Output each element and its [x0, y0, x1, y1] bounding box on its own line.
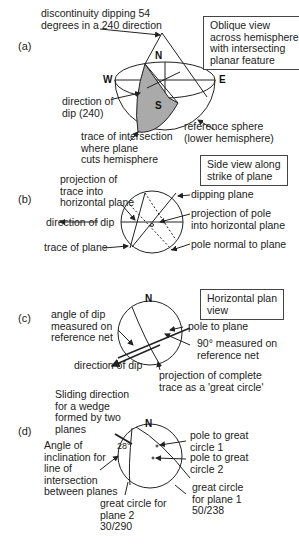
angle-value: 28°: [117, 441, 131, 453]
pole-normal: pole normal to plane: [191, 239, 286, 251]
projection-complete-trace: projection of complete trace as a 'great…: [159, 370, 263, 393]
discontinuity-note: discontinuity dipping 54 degrees in a 24…: [41, 8, 162, 31]
north-label-c: N: [145, 293, 152, 304]
panel-b-box: Side view along strike of plane: [200, 155, 288, 186]
reference-sphere: reference sphere (lower hemisphere): [184, 121, 274, 144]
west-label-a: W: [103, 74, 112, 85]
ninety-measured: 90° measured on reference net: [197, 338, 277, 361]
angle-of-dip: angle of dip measured on reference net: [51, 309, 113, 344]
sliding-direction: Sliding direction for a wedge formed by …: [55, 389, 129, 435]
south-label-a: S: [155, 100, 162, 111]
great-circle-plane-2: great circle for plane 2 30/290: [100, 498, 167, 533]
angle-of-inclination: Angle of inclination for line of interse…: [44, 440, 118, 498]
direction-of-dip-b: direction of dip: [46, 217, 114, 229]
trace-of-intersection: trace of intersection where plane cuts h…: [81, 131, 173, 166]
panel-a-box: Oblique view across hemisphere with inte…: [203, 16, 299, 70]
panel-label-a: (a): [18, 40, 31, 52]
east-label-a: E: [219, 74, 226, 85]
direction-of-dip-c: direction of dip: [74, 360, 142, 372]
panel-label-c: (c): [18, 312, 31, 324]
pole-great-circle-1: pole to great circle 1: [190, 430, 248, 453]
panel-c-box: Horizontal plan view: [200, 289, 284, 320]
projection-of-trace: projection of trace into horizontal plan…: [60, 174, 134, 209]
great-circle-plane-1: great circle for plane 1 50/238: [192, 482, 243, 517]
north-label-d: N: [145, 418, 152, 429]
pole-to-plane: pole to plane: [188, 321, 248, 333]
pole-great-circle-2: pole to great circle 2: [190, 452, 248, 475]
projection-of-pole: projection of pole into horizontal plane: [191, 208, 285, 231]
trace-of-plane: trace of plane: [44, 242, 108, 254]
dipping-plane: dipping plane: [191, 189, 253, 201]
panel-label-b: (b): [18, 193, 31, 205]
panel-label-d: (d): [18, 425, 31, 437]
direction-of-dip-a: direction of dip (240): [62, 96, 113, 119]
north-label-a: N: [155, 50, 162, 61]
